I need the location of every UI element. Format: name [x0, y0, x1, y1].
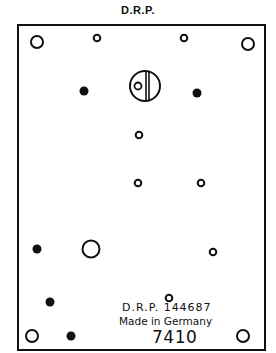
- filled-dot-icon: [193, 89, 202, 98]
- large-hole-icon: [83, 241, 100, 258]
- slotted-screw-icon: [130, 71, 160, 101]
- small-hole-icon: [181, 35, 188, 42]
- model-number-label: 7410: [152, 327, 197, 347]
- corner-hole-icon: [237, 330, 249, 342]
- small-hole-icon: [198, 180, 205, 187]
- small-hole-icon: [136, 132, 143, 139]
- small-hole-icon: [94, 35, 101, 42]
- origin-label: Made in Germany: [119, 315, 212, 327]
- patent-number-label: D.R.P. 144687: [122, 301, 212, 314]
- small-hole-icon: [210, 249, 217, 256]
- corner-hole-icon: [242, 38, 254, 50]
- filled-dot-icon: [67, 332, 76, 341]
- corner-hole-icon: [31, 36, 43, 48]
- corner-hole-icon: [26, 330, 38, 342]
- filled-dot-icon: [33, 245, 42, 254]
- filled-dot-icon: [80, 87, 89, 96]
- small-hole-icon: [135, 180, 142, 187]
- filled-dot-icon: [46, 298, 55, 307]
- mounting-holes: [26, 35, 254, 342]
